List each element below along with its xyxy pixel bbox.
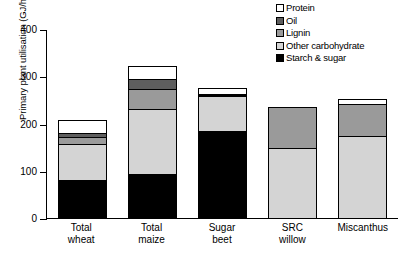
chart-legend: ProteinOilLigninOther carbohydrateStarch… bbox=[276, 2, 364, 65]
x-axis-label-line: maize bbox=[116, 234, 186, 246]
bar-segment bbox=[339, 136, 386, 218]
y-axis-tick bbox=[40, 30, 47, 31]
legend-swatch-icon bbox=[276, 29, 284, 37]
y-axis-tick-label: 0 bbox=[9, 214, 37, 224]
stacked-bar[interactable] bbox=[58, 120, 107, 218]
x-axis-label: Sugarbeet bbox=[187, 222, 257, 246]
x-axis-label-line: SRC bbox=[257, 222, 327, 234]
y-axis-tick bbox=[40, 219, 47, 220]
x-axis-label: SRCwillow bbox=[257, 222, 327, 246]
x-axis-label-line: beet bbox=[187, 234, 257, 246]
legend-item-label: Lignin bbox=[286, 27, 310, 40]
bar-segment bbox=[129, 174, 176, 218]
legend-item-label: Other carbohydrate bbox=[286, 40, 364, 53]
legend-item-label: Protein bbox=[286, 2, 315, 15]
x-axis-label-line: Total bbox=[116, 222, 186, 234]
x-axis-labels: TotalwheatTotalmaizeSugarbeetSRCwillowMi… bbox=[46, 222, 398, 246]
x-axis-label-line: willow bbox=[257, 234, 327, 246]
bar-slot bbox=[47, 30, 117, 218]
legend-item[interactable]: Protein bbox=[276, 2, 364, 15]
bar-segment bbox=[269, 108, 316, 148]
bar-segment bbox=[59, 180, 106, 218]
x-axis-label: Totalwheat bbox=[46, 222, 116, 246]
y-axis-tick bbox=[40, 77, 47, 78]
bar-segment bbox=[129, 79, 176, 89]
x-axis-label: Totalmaize bbox=[116, 222, 186, 246]
bar-segment bbox=[199, 131, 246, 218]
legend-swatch-icon bbox=[276, 54, 284, 62]
bar-segment bbox=[129, 89, 176, 109]
x-axis-label-line: Sugar bbox=[187, 222, 257, 234]
stacked-bar-chart: Primary plant utilisation (GJ/ha) 010020… bbox=[0, 0, 402, 262]
stacked-bar[interactable] bbox=[338, 99, 387, 218]
y-axis-tick-label: 100 bbox=[9, 167, 37, 177]
y-axis-tick-label: 200 bbox=[9, 120, 37, 130]
stacked-bar[interactable] bbox=[268, 107, 317, 218]
legend-item-label: Oil bbox=[286, 15, 297, 28]
x-axis-label: Miscanthus bbox=[328, 222, 398, 246]
legend-swatch-icon bbox=[276, 42, 284, 50]
legend-swatch-icon bbox=[276, 4, 284, 12]
legend-item[interactable]: Other carbohydrate bbox=[276, 40, 364, 53]
y-axis-tick-label: 300 bbox=[9, 72, 37, 82]
bar-slot bbox=[187, 30, 257, 218]
bar-segment bbox=[339, 104, 386, 136]
y-axis-tick bbox=[40, 172, 47, 173]
x-axis-label-line: wheat bbox=[46, 234, 116, 246]
x-axis-label-line: Total bbox=[46, 222, 116, 234]
stacked-bar[interactable] bbox=[198, 88, 247, 218]
bar-segment bbox=[59, 144, 106, 180]
bar-segment bbox=[129, 109, 176, 174]
legend-item-label: Starch & sugar bbox=[286, 52, 346, 65]
x-axis-label-line: Miscanthus bbox=[328, 222, 398, 234]
legend-item[interactable]: Lignin bbox=[276, 27, 364, 40]
legend-swatch-icon bbox=[276, 17, 284, 25]
y-axis-tick-label: 400 bbox=[9, 25, 37, 35]
legend-item[interactable]: Oil bbox=[276, 15, 364, 28]
bar-segment bbox=[199, 96, 246, 131]
bar-segment bbox=[269, 148, 316, 218]
legend-item[interactable]: Starch & sugar bbox=[276, 52, 364, 65]
bar-segment bbox=[129, 67, 176, 79]
y-axis-tick bbox=[40, 125, 47, 126]
bar-segment bbox=[59, 121, 106, 133]
bar-segment bbox=[59, 137, 106, 144]
bar-slot bbox=[117, 30, 187, 218]
stacked-bar[interactable] bbox=[128, 66, 177, 218]
